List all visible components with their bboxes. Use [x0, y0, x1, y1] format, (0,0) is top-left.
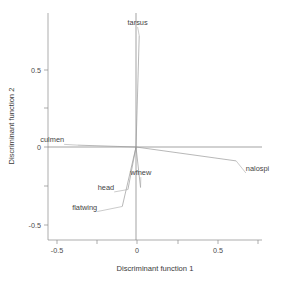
x-tick-label--0.5: -0.5: [51, 246, 63, 255]
plot-canvas: 0.5 0 -0.5 -0.5 0 0.5 Discriminant funct…: [0, 0, 283, 285]
leader-flatwing: [97, 206, 122, 211]
leader-nalospi: [236, 161, 246, 173]
vector-label-flatwing: flatwing: [72, 203, 97, 212]
y-tick-label--0.5: -0.5: [29, 221, 41, 230]
vector-tarsus: [136, 36, 139, 147]
vector-label-wfnew: wfnew: [129, 168, 152, 177]
loading-vectors: [78, 36, 236, 207]
x-axis-title: Discriminant function 1: [117, 264, 194, 273]
label-leader-lines: [64, 27, 246, 212]
y-tick-label-0.5: 0.5: [31, 66, 41, 75]
vector-nalospi: [136, 147, 236, 161]
leader-culmen: [64, 144, 78, 145]
variable-labels: tarsusnalospiculmenflatwingheadwfnew: [40, 18, 269, 212]
x-tick-label-0.5: 0.5: [213, 246, 223, 255]
axis-ticks: [44, 70, 258, 244]
vector-label-culmen: culmen: [40, 135, 64, 144]
vector-label-tarsus: tarsus: [128, 18, 148, 27]
leader-tarsus: [138, 27, 140, 36]
vector-label-nalospi: nalospi: [246, 164, 270, 173]
y-axis-title: Discriminant function 2: [7, 88, 16, 165]
x-tick-label-0: 0: [135, 246, 139, 255]
vector-label-head: head: [98, 183, 114, 192]
discriminant-biplot: 0.5 0 -0.5 -0.5 0 0.5 Discriminant funct…: [0, 0, 283, 285]
